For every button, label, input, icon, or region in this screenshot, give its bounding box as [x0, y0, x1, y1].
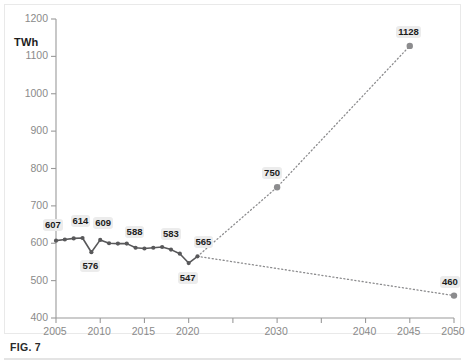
x-axis-tick-label: 2045: [389, 325, 429, 337]
data-point-marker: [107, 241, 111, 245]
x-axis-tick-label: 2040: [345, 325, 385, 337]
data-point-value-label: 576: [80, 260, 100, 272]
x-axis-tick-label: 2010: [79, 325, 119, 337]
data-point-marker: [125, 242, 129, 246]
y-axis-tick-label: 800: [14, 162, 48, 174]
data-point-marker: [80, 236, 84, 240]
x-axis-tick-label: 2050: [433, 325, 465, 337]
y-axis-tick-label: 1100: [14, 49, 48, 61]
data-point-value-label: 583: [161, 228, 181, 240]
projection-point-marker: [451, 292, 457, 298]
figure-container: TWh 400500600700800900100011001200200520…: [0, 0, 465, 363]
y-axis-tick-label: 700: [14, 199, 48, 211]
chart-plot-area: [5, 5, 462, 335]
projection-point-marker: [274, 184, 280, 190]
data-point-marker: [169, 248, 173, 252]
data-point-marker: [178, 252, 182, 256]
x-axis-tick-label: 2020: [168, 325, 208, 337]
data-point-marker: [116, 242, 120, 246]
data-point-marker: [160, 245, 164, 249]
figure-caption: FIG. 7: [10, 341, 41, 353]
data-point-value-label: 460: [440, 276, 460, 288]
data-point-marker: [98, 238, 102, 242]
projection-point-marker: [407, 43, 413, 49]
y-axis-unit-label: TWh: [14, 36, 38, 48]
y-axis-tick-label: 500: [14, 274, 48, 286]
y-axis-tick-label: 600: [14, 236, 48, 248]
y-axis-tick-label: 1000: [14, 87, 48, 99]
data-point-value-label: 588: [125, 226, 145, 238]
series-line-2: [198, 256, 454, 295]
caption-divider: [4, 358, 461, 360]
x-axis-tick-label: 2005: [35, 325, 75, 337]
data-point-value-label: 750: [262, 167, 282, 179]
data-point-value-label: 1128: [396, 26, 421, 38]
data-point-marker: [89, 250, 93, 254]
y-axis-tick-label: 900: [14, 124, 48, 136]
chart-frame: [4, 4, 461, 334]
data-point-value-label: 609: [93, 217, 113, 229]
data-point-marker: [72, 236, 76, 240]
series-line-1: [198, 46, 410, 256]
data-point-marker: [54, 239, 58, 243]
y-axis-tick-label: 400: [14, 311, 48, 323]
x-axis-tick-label: 2030: [256, 325, 296, 337]
data-point-marker: [151, 246, 155, 250]
data-point-marker: [187, 261, 191, 265]
data-point-marker: [195, 254, 199, 258]
data-point-marker: [134, 246, 138, 250]
y-axis-tick-label: 1200: [14, 12, 48, 24]
data-point-value-label: 614: [71, 215, 91, 227]
data-point-marker: [142, 246, 146, 250]
data-point-value-label: 607: [43, 219, 63, 231]
data-point-value-label: 565: [194, 236, 214, 248]
data-point-value-label: 547: [178, 272, 198, 284]
data-point-marker: [63, 237, 67, 241]
x-axis-tick-label: 2015: [123, 325, 163, 337]
